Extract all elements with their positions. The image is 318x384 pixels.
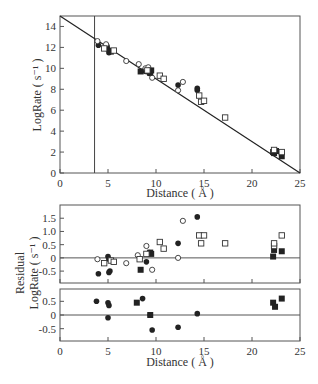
y-tick-label: -0.5 xyxy=(39,265,57,277)
open-circle-marker xyxy=(150,267,155,272)
y-tick-label: 0 xyxy=(51,252,57,264)
open-square-marker xyxy=(161,76,166,81)
open-circle-marker xyxy=(144,243,149,248)
x-tick-label: 5 xyxy=(105,177,111,189)
y-tick-label: 1.0 xyxy=(42,225,56,237)
open-square-marker xyxy=(271,241,276,246)
open-circle-marker xyxy=(150,75,155,80)
x-tick-label: 25 xyxy=(295,177,307,189)
open-square-marker xyxy=(157,239,162,244)
open-square-marker xyxy=(271,147,276,152)
open-circle-marker xyxy=(95,257,100,262)
open-circle-marker xyxy=(124,261,129,266)
filled-square-marker xyxy=(147,312,153,318)
filled-circle-marker xyxy=(175,241,181,247)
open-circle-marker xyxy=(136,62,141,67)
x-tick-label: 25 xyxy=(295,345,307,357)
open-square-marker xyxy=(279,233,284,238)
open-square-marker xyxy=(279,149,284,154)
top-y-axis-label: LogRate ( s⁻¹ ) xyxy=(30,59,44,132)
x-tick-label: 5 xyxy=(105,345,111,357)
chart-figure: 051015202502468101214 -0.500.51.01.5 051… xyxy=(0,0,318,384)
filled-circle-marker xyxy=(194,88,200,94)
open-circle-marker xyxy=(180,218,185,223)
y-tick-label: 0 xyxy=(51,309,57,321)
open-circle-marker xyxy=(95,39,100,44)
open-square-marker xyxy=(111,48,116,53)
y-tick-label: 14 xyxy=(45,20,57,32)
y-tick-label: 10 xyxy=(45,62,57,74)
open-square-marker xyxy=(101,260,106,265)
open-square-marker xyxy=(201,98,206,103)
open-square-marker xyxy=(137,257,142,262)
x-tick-label: 20 xyxy=(247,177,259,189)
open-square-marker xyxy=(101,46,106,51)
residual-y-axis-label-line2: LogRate ( s⁻¹ ) xyxy=(27,237,41,310)
open-square-marker xyxy=(144,251,149,256)
open-circle-marker xyxy=(175,255,180,260)
y-tick-label: 0.5 xyxy=(42,295,56,307)
y-tick-label: 8 xyxy=(51,83,57,95)
filled-square-marker xyxy=(279,248,285,254)
top-scatter-panel: 051015202502468101214 xyxy=(45,16,306,189)
x-tick-label: 20 xyxy=(247,345,259,357)
y-tick-label: 12 xyxy=(45,41,56,53)
filled-circle-marker xyxy=(96,271,102,277)
open-square-marker xyxy=(222,115,227,120)
filled-circle-marker xyxy=(140,296,146,302)
x-tick-label: 0 xyxy=(57,177,63,189)
open-square-marker xyxy=(161,246,166,251)
filled-circle-marker xyxy=(106,270,112,276)
bottom-x-axis-label: Distance ( Å ) xyxy=(146,355,214,369)
filled-circle-marker xyxy=(94,299,100,305)
open-circle-marker xyxy=(124,58,129,63)
filled-square-marker xyxy=(279,296,285,302)
filled-circle-marker xyxy=(194,311,200,317)
open-square-marker xyxy=(111,259,116,264)
filled-circle-marker xyxy=(175,82,181,88)
y-tick-label: -0.5 xyxy=(39,323,57,335)
open-square-marker xyxy=(222,241,227,246)
y-tick-label: 1.5 xyxy=(42,212,56,224)
filled-circle-marker xyxy=(106,303,112,309)
y-tick-label: 4 xyxy=(51,125,57,137)
filled-square-marker xyxy=(270,254,276,260)
y-tick-label: 0 xyxy=(51,167,57,179)
open-square-marker xyxy=(197,93,202,98)
x-tick-label: 0 xyxy=(57,345,63,357)
y-tick-label: 2 xyxy=(51,146,57,158)
filled-square-marker xyxy=(272,304,278,310)
filled-circle-marker xyxy=(144,259,150,265)
open-circle-marker xyxy=(175,88,180,93)
filled-circle-marker xyxy=(194,214,200,220)
filled-circle-marker xyxy=(149,327,155,333)
open-square-marker xyxy=(145,68,150,73)
filled-square-marker xyxy=(134,300,140,306)
middle-residual-panel: -0.500.51.01.5 xyxy=(39,205,300,283)
open-circle-marker xyxy=(180,79,185,84)
residual-y-axis-label-line1: Residual xyxy=(13,251,27,294)
open-square-marker xyxy=(198,241,203,246)
filled-square-marker xyxy=(138,68,144,74)
y-tick-label: 6 xyxy=(51,104,57,116)
bottom-residual-panel: 0510152025-0.500.5 xyxy=(39,289,306,357)
filled-square-marker xyxy=(138,267,144,273)
filled-circle-marker xyxy=(105,315,111,321)
y-tick-label: 0.5 xyxy=(42,239,56,251)
top-x-axis-label: Distance ( Å ) xyxy=(146,186,214,200)
open-square-marker xyxy=(201,233,206,238)
filled-circle-marker xyxy=(175,325,181,331)
